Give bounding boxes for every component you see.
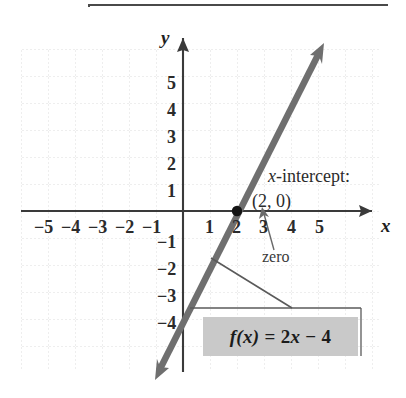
x-tick--5: −5	[34, 218, 53, 236]
zero-annotation: zero	[262, 249, 290, 265]
formula-callout: f(x) = 2x − 4	[203, 317, 358, 356]
x-axis-label: x	[381, 216, 391, 235]
x-tick-4: 4	[287, 218, 296, 236]
y-tick-2: 2	[167, 155, 176, 173]
x-intercept-annotation-line1: x-intercept:	[268, 167, 350, 185]
x-tick--2: −2	[115, 218, 134, 236]
x-tick--3: −3	[88, 218, 107, 236]
figure-container: y x −5 −4 −3 −2 −1 1 2 3 4 5 5 4 3 2 1 −…	[0, 0, 406, 398]
y-tick-1: 1	[167, 182, 176, 200]
y-axis-label: y	[161, 28, 169, 47]
y-tick--2: −2	[157, 260, 176, 278]
x-tick--4: −4	[61, 218, 80, 236]
formula-fx: f(x)	[230, 326, 260, 347]
y-tick--1: −1	[157, 233, 176, 251]
y-tick-4: 4	[167, 101, 176, 119]
formula-tail: − 4	[300, 326, 331, 347]
x-intercept-annotation-line2: (2, 0)	[252, 192, 291, 210]
y-tick--4: −4	[157, 314, 176, 332]
y-tick-5: 5	[167, 74, 176, 92]
x-tick-1: 1	[205, 218, 214, 236]
formula-x: x	[290, 326, 300, 347]
x-tick-3: 3	[259, 218, 268, 236]
y-tick-3: 3	[167, 128, 176, 146]
formula-eq: = 2	[259, 326, 290, 347]
x-intercept-annotation-var: x	[268, 166, 276, 186]
x-tick-5: 5	[315, 218, 324, 236]
x-tick-2: 2	[232, 218, 241, 236]
y-tick--3: −3	[157, 287, 176, 305]
x-intercept-point	[232, 206, 242, 216]
x-intercept-annotation-text: -intercept:	[276, 166, 350, 186]
